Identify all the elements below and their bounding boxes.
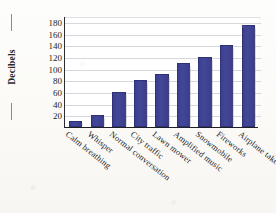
- bar: [134, 80, 147, 127]
- bar: [177, 63, 190, 127]
- chart-page: Decibels 18016014012010080604020 Calm br…: [0, 0, 276, 213]
- y-axis-title-text: Decibels: [7, 49, 17, 84]
- axis-title-rule-top: [11, 14, 12, 31]
- bar: [69, 121, 82, 127]
- axis-title-rule-bottom: [11, 103, 12, 120]
- bar: [198, 57, 211, 127]
- gridline: [65, 23, 261, 24]
- gridline: [65, 35, 261, 36]
- y-tick-label: 140: [36, 42, 62, 51]
- y-tick-label: 120: [36, 53, 62, 62]
- bar: [155, 74, 168, 127]
- y-tick-label: 20: [36, 112, 62, 121]
- y-tick-label: 80: [36, 77, 62, 86]
- bar: [112, 92, 125, 127]
- bar: [91, 115, 104, 127]
- y-axis-title: Decibels: [4, 34, 20, 100]
- y-tick-label: 160: [36, 30, 62, 39]
- bar: [242, 25, 255, 127]
- plot-area: [64, 17, 258, 128]
- y-tick-label: 40: [36, 100, 62, 109]
- bar: [220, 45, 233, 127]
- plot-top-border: [65, 17, 261, 18]
- y-tick-label: 60: [36, 88, 62, 97]
- y-tick-label: 100: [36, 65, 62, 74]
- x-axis-tick-labels: Calm breathingWhisperNormal conversation…: [64, 129, 276, 213]
- y-axis-tick-labels: 18016014012010080604020: [32, 17, 62, 128]
- y-tick-label: 180: [36, 18, 62, 27]
